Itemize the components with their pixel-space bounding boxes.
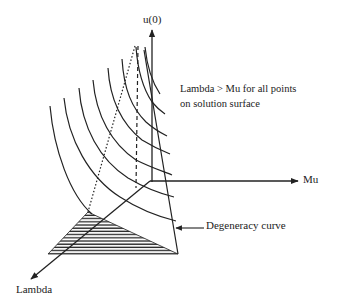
dashed-guide-line <box>136 46 138 188</box>
hatched-region <box>48 212 178 254</box>
degeneracy-curve-label: Degeneracy curve <box>206 220 286 231</box>
u0-axis-label: u(0) <box>143 14 161 25</box>
degeneracy-curve-line <box>144 50 178 254</box>
surface-note: Lambda > Mu for all points on solution s… <box>180 81 296 111</box>
lambda-axis <box>31 181 150 279</box>
surface-note-line1: Lambda > Mu for all points <box>180 81 296 96</box>
surface-note-line2: on solution surface <box>180 96 296 111</box>
dotted-guide-line <box>88 46 135 212</box>
mu-axis-label: Mu <box>303 174 318 185</box>
solution-surface-diagram <box>0 0 337 299</box>
lambda-axis-label: Lambda <box>16 284 52 295</box>
level-curves <box>50 47 176 221</box>
